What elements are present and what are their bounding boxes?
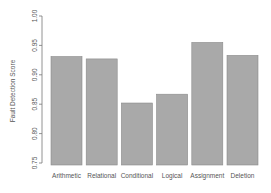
x-label-assignment: Assignment <box>190 172 224 180</box>
y-tick-label: 0.85 <box>31 97 38 110</box>
y-axis-label: Fault Detection Score <box>9 59 16 122</box>
x-label-arithmetic: Arithmetic <box>52 172 82 179</box>
y-tick-label: 0.90 <box>31 68 38 81</box>
y-axis: 0.750.800.850.900.951.00 <box>31 9 42 169</box>
bar-assignment <box>192 42 223 165</box>
bar-deletion <box>227 55 258 165</box>
y-tick-label: 0.80 <box>31 127 38 140</box>
y-tick-label: 0.75 <box>31 156 38 169</box>
y-tick-label: 1.00 <box>31 9 38 22</box>
x-axis-labels: ArithmeticRelationalConditionalLogicalAs… <box>52 172 255 180</box>
x-label-relational: Relational <box>87 172 116 179</box>
x-label-deletion: Deletion <box>231 172 255 179</box>
bars <box>51 42 258 165</box>
x-label-logical: Logical <box>162 172 183 180</box>
x-label-conditional: Conditional <box>121 172 154 179</box>
bar-relational <box>86 59 117 165</box>
bar-chart: 0.750.800.850.900.951.00 Fault Detection… <box>0 0 271 193</box>
y-tick-label: 0.95 <box>31 39 38 52</box>
bar-arithmetic <box>51 57 82 165</box>
bar-logical <box>157 94 188 165</box>
bar-conditional <box>121 103 152 165</box>
